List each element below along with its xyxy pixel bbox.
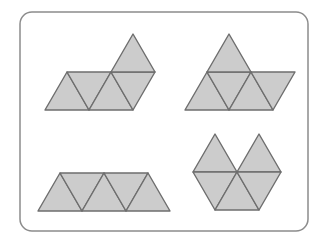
figure-container [0, 0, 328, 245]
shape-bottom-left [38, 173, 170, 211]
triangle-nets-figure [0, 0, 328, 245]
